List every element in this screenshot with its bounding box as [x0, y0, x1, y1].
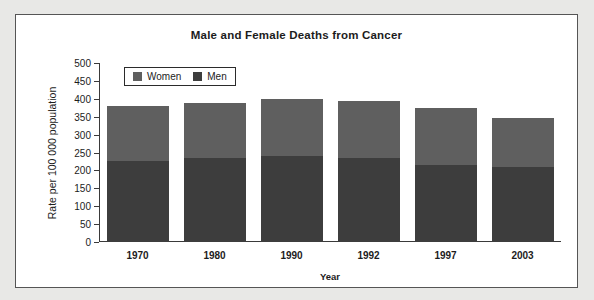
bar-group[interactable]: 1990 [261, 63, 323, 242]
y-axis-title: Rate per 100 000 population [44, 63, 60, 242]
bar-group[interactable]: 1980 [184, 63, 246, 242]
bar-segment-women[interactable] [338, 101, 400, 158]
y-axis-tick: 350 [99, 117, 100, 118]
legend-swatch-icon [193, 72, 202, 81]
y-axis-tick: 100 [99, 206, 100, 207]
y-axis-tick-mark [94, 188, 99, 189]
y-axis-tick: 50 [99, 224, 100, 225]
bar-group[interactable]: 1997 [415, 63, 477, 242]
legend-swatch-icon [133, 72, 142, 81]
x-axis-tick-label: 2003 [492, 250, 554, 261]
y-axis-tick-label: 150 [74, 183, 91, 194]
y-axis-tick-mark [94, 153, 99, 154]
y-axis-tick-label: 250 [74, 147, 91, 158]
bar-segment-women[interactable] [261, 99, 323, 156]
y-axis-tick-label: 500 [74, 58, 91, 69]
chart-title: Male and Female Deaths from Cancer [16, 29, 577, 41]
x-axis-tick-label: 1990 [261, 250, 323, 261]
y-axis-tick-label: 400 [74, 93, 91, 104]
legend-item[interactable]: Men [193, 71, 226, 82]
y-axis-tick-mark [94, 224, 99, 225]
x-axis-tick-label: 1980 [184, 250, 246, 261]
y-axis-tick-label: 300 [74, 129, 91, 140]
legend-item-label: Men [207, 71, 226, 82]
plot-area: 050100150200250300350400450500 197019801… [99, 63, 561, 242]
y-axis-tick-mark [94, 99, 99, 100]
bar-segment-men[interactable] [492, 167, 554, 242]
bar-segment-men[interactable] [338, 158, 400, 242]
bar-segment-men[interactable] [184, 158, 246, 242]
y-axis-tick-mark [94, 206, 99, 207]
y-axis-tick: 500 [99, 63, 100, 64]
y-axis-tick-label: 450 [74, 75, 91, 86]
y-axis-tick-mark [94, 81, 99, 82]
y-axis-tick: 0 [99, 242, 100, 243]
bar-segment-men[interactable] [415, 165, 477, 242]
bar-segment-women[interactable] [184, 103, 246, 157]
x-axis-title: Year [99, 271, 561, 282]
bar-segment-women[interactable] [107, 106, 169, 161]
y-axis-tick: 250 [99, 153, 100, 154]
bar-segment-men[interactable] [107, 161, 169, 242]
stacked-bar[interactable] [107, 106, 169, 242]
y-axis-tick-label: 350 [74, 111, 91, 122]
y-axis-tick-mark [94, 63, 99, 64]
stacked-bar[interactable] [261, 99, 323, 242]
y-axis-tick-mark [94, 135, 99, 136]
y-axis-tick-mark [94, 170, 99, 171]
y-axis-tick-label: 0 [85, 237, 91, 248]
bar-segment-women[interactable] [415, 108, 477, 165]
bar-group[interactable]: 2003 [492, 63, 554, 242]
x-axis-tick-label: 1997 [415, 250, 477, 261]
y-axis-tick: 300 [99, 135, 100, 136]
y-axis-tick-mark [94, 242, 99, 243]
stacked-bar[interactable] [338, 101, 400, 242]
y-axis-tick: 400 [99, 99, 100, 100]
y-axis-tick-label: 50 [80, 219, 91, 230]
stacked-bar[interactable] [492, 118, 554, 242]
stacked-bar[interactable] [415, 108, 477, 242]
x-axis-tick-label: 1970 [107, 250, 169, 261]
stacked-bar[interactable] [184, 103, 246, 242]
bar-group[interactable]: 1970 [107, 63, 169, 242]
y-axis-tick: 150 [99, 188, 100, 189]
bar-segment-women[interactable] [492, 118, 554, 167]
x-axis-tick-label: 1992 [338, 250, 400, 261]
bar-group[interactable]: 1992 [338, 63, 400, 242]
figure-frame: Male and Female Deaths from Cancer Rate … [15, 14, 578, 288]
chart-legend: WomenMen [124, 67, 236, 86]
bar-segment-men[interactable] [261, 156, 323, 242]
legend-item-label: Women [147, 71, 181, 82]
y-axis-tick-mark [94, 117, 99, 118]
y-axis-title-label: Rate per 100 000 population [46, 86, 58, 219]
y-axis-tick-label: 200 [74, 165, 91, 176]
y-axis-tick: 200 [99, 170, 100, 171]
legend-item[interactable]: Women [133, 71, 181, 82]
y-axis-tick: 450 [99, 81, 100, 82]
y-axis-tick-label: 100 [74, 201, 91, 212]
